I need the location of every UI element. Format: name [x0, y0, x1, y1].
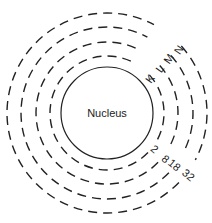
shell-m-arc — [171, 55, 193, 153]
electron-shell-diagram: Nucleus KLMN 281832 — [0, 0, 212, 223]
shell-label-n: N — [172, 43, 186, 56]
shell-l-arc — [160, 65, 178, 146]
shell-capacity-labels: 281832 — [148, 142, 197, 183]
shell-n-arc — [181, 46, 207, 160]
nucleus-label: Nucleus — [87, 107, 127, 119]
shell-label-k: K — [143, 72, 157, 85]
capacity-label-32: 32 — [180, 166, 197, 183]
shell-letter-labels: KLMN — [143, 43, 186, 85]
capacity-label-2: 2 — [148, 142, 160, 155]
shell-label-l: L — [153, 63, 166, 75]
shell-label-m: M — [161, 52, 176, 66]
